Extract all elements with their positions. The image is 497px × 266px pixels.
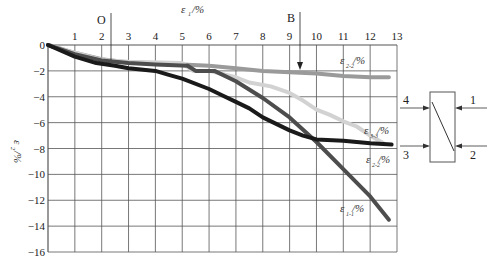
x-tick-label: 13 bbox=[392, 30, 404, 42]
svg-text:/%: /% bbox=[352, 54, 365, 66]
y-tick-label: −8 bbox=[33, 143, 45, 155]
x-tick-label: 5 bbox=[179, 30, 185, 42]
arrow-3-icon bbox=[423, 144, 430, 149]
x-axis-ticks: 12345678910111213 bbox=[72, 30, 403, 42]
x-tick-label: 11 bbox=[338, 30, 349, 42]
specimen-box bbox=[430, 92, 455, 162]
svg-text:/%: /% bbox=[12, 150, 24, 163]
arrow-2-icon bbox=[455, 144, 462, 149]
arrow-1-icon bbox=[455, 106, 462, 111]
x-tick-label: 9 bbox=[287, 30, 293, 42]
svg-text:4: 4 bbox=[403, 93, 409, 107]
y-axis-ticks: 0−2−4−6−8−10−12−14−16 bbox=[28, 39, 46, 258]
svg-text:/%: /% bbox=[351, 202, 364, 214]
svg-text:ε: ε bbox=[364, 124, 369, 136]
x-tick-label: 10 bbox=[311, 30, 323, 42]
svg-text:2: 2 bbox=[10, 147, 16, 150]
y-tick-label: −4 bbox=[33, 91, 45, 103]
y-tick-label: 0 bbox=[40, 39, 46, 51]
x-tick-label: 2 bbox=[99, 30, 105, 42]
svg-text:O: O bbox=[97, 13, 106, 27]
svg-text:/%: /% bbox=[377, 153, 390, 165]
y-tick-label: −12 bbox=[28, 194, 45, 206]
arrow-4-icon bbox=[423, 106, 430, 111]
svg-text:ε: ε bbox=[366, 153, 371, 165]
svg-text:/%: /% bbox=[191, 3, 204, 15]
svg-text:/%: /% bbox=[376, 124, 389, 136]
series-label-e22-top: ε 2-2 /% bbox=[340, 54, 365, 69]
x-tick-label: 3 bbox=[126, 30, 132, 42]
svg-text:3: 3 bbox=[403, 148, 409, 162]
svg-text:B: B bbox=[287, 11, 295, 25]
x-tick-label: 12 bbox=[365, 30, 376, 42]
strain-chart: 12345678910111213 0−2−4−6−8−10−12−14−16 … bbox=[0, 0, 497, 266]
x-tick-label: 1 bbox=[72, 30, 78, 42]
x-tick-label: 4 bbox=[153, 30, 159, 42]
x-tick-label: 8 bbox=[260, 30, 266, 42]
svg-text:1: 1 bbox=[470, 93, 476, 107]
y-tick-label: −14 bbox=[28, 220, 46, 232]
x-tick-label: 6 bbox=[206, 30, 212, 42]
y-axis-title: ε 2 /% bbox=[10, 140, 24, 163]
series-label-e22-mid: ε 2-2 /% bbox=[366, 153, 390, 168]
svg-text:ε: ε bbox=[340, 202, 345, 214]
series-label-e33: ε 3-3 /% bbox=[364, 124, 389, 139]
svg-text:ε: ε bbox=[181, 3, 186, 15]
y-tick-label: −6 bbox=[33, 117, 45, 129]
y-tick-label: −2 bbox=[33, 65, 45, 77]
svg-text:ε: ε bbox=[12, 140, 24, 145]
specimen-diagram: 4 3 1 2 bbox=[400, 92, 487, 162]
svg-text:ε: ε bbox=[340, 54, 345, 66]
svg-text:2: 2 bbox=[470, 148, 476, 162]
x-axis-title: ε 1 /% bbox=[181, 3, 204, 17]
y-tick-label: −10 bbox=[28, 168, 46, 180]
x-tick-label: 7 bbox=[233, 30, 239, 42]
y-tick-label: −16 bbox=[28, 246, 46, 258]
svg-text:1: 1 bbox=[188, 11, 191, 17]
